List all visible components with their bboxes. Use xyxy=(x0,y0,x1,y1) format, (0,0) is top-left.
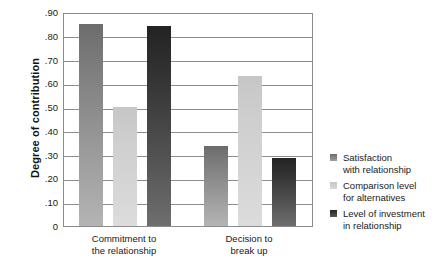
bar xyxy=(238,76,262,226)
legend-swatch-icon xyxy=(330,182,337,189)
legend-item[interactable]: Comparison levelfor alternatives xyxy=(330,180,442,203)
bar xyxy=(79,24,103,226)
y-axis-tick-labels: .90.80.70.60.50.40.30.20.100 xyxy=(0,13,58,227)
x-axis-label-line: the relationship xyxy=(64,245,184,257)
bar-chart-figure: Degree of contribution .90.80.70.60.50.4… xyxy=(0,0,445,270)
y-axis-tick-label: .80 xyxy=(6,32,58,42)
x-axis-category-label: Commitment tothe relationship xyxy=(64,233,184,257)
legend-swatch-icon xyxy=(330,154,337,161)
legend-label-line: Satisfaction xyxy=(343,152,442,164)
y-axis-tick-label: .50 xyxy=(6,103,58,113)
legend-label-line: Comparison level xyxy=(343,180,442,192)
legend-label-line: with relationship xyxy=(343,164,442,176)
legend-swatch-icon xyxy=(330,210,337,217)
y-axis-tick-label: .70 xyxy=(6,56,58,66)
bar xyxy=(113,107,137,226)
x-axis-label-line: Decision to xyxy=(189,233,309,245)
legend-label-line: for alternatives xyxy=(343,192,442,204)
y-axis-tick-label: .10 xyxy=(6,198,58,208)
bar xyxy=(204,146,228,226)
legend-item[interactable]: Level of investmentin relationship xyxy=(330,208,442,231)
y-axis-tick-label: .30 xyxy=(6,151,58,161)
y-axis-tick-label: .90 xyxy=(6,8,58,18)
bar xyxy=(272,158,296,226)
legend-label-line: Level of investment xyxy=(343,208,442,220)
y-axis-tick-label: 0 xyxy=(6,222,58,232)
bar xyxy=(147,26,171,226)
x-axis-category-label: Decision tobreak up xyxy=(189,233,309,257)
x-axis-label-line: Commitment to xyxy=(64,233,184,245)
x-axis-label-line: break up xyxy=(189,245,309,257)
y-axis-tick-label: .60 xyxy=(6,79,58,89)
legend-label-line: in relationship xyxy=(343,220,442,232)
chart-legend: Satisfactionwith relationshipComparison … xyxy=(330,152,442,236)
y-axis-tick-label: .40 xyxy=(6,127,58,137)
y-axis-tick-label: .20 xyxy=(6,174,58,184)
legend-item[interactable]: Satisfactionwith relationship xyxy=(330,152,442,175)
plot-area xyxy=(63,13,313,227)
